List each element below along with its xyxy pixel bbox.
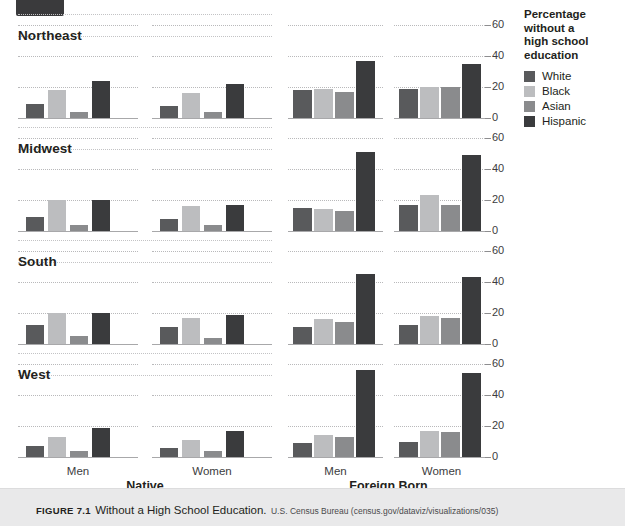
bar-hispanic bbox=[356, 370, 375, 457]
legend-label-asian: Asian bbox=[542, 100, 571, 112]
plot-area bbox=[394, 364, 489, 457]
y-tick-label-0: 0 bbox=[492, 450, 498, 462]
caption-source: U.S. Census Bureau (census.gov/dataviz/v… bbox=[271, 506, 498, 516]
axis-baseline bbox=[152, 344, 272, 345]
legend-title-line-4: education bbox=[524, 49, 620, 63]
bar-asian bbox=[335, 322, 354, 344]
plot-area bbox=[152, 25, 272, 118]
bar-hispanic bbox=[92, 200, 110, 231]
region-row-midwest: Midwest6040200 bbox=[0, 127, 625, 240]
legend-swatch-hispanic-icon bbox=[524, 116, 535, 127]
bar-asian bbox=[441, 432, 460, 457]
panel-midwest-native-women bbox=[152, 127, 272, 240]
panel-south-foreign-born-women bbox=[394, 240, 489, 353]
bar-hispanic bbox=[226, 315, 244, 344]
bar-asian bbox=[441, 205, 460, 231]
y-tick-mark bbox=[485, 200, 491, 201]
bar-hispanic bbox=[226, 205, 244, 231]
panel-midwest-foreign-born-women bbox=[394, 127, 489, 240]
figure-caption-bar: FIGURE 7.1 Without a High School Educati… bbox=[0, 488, 625, 526]
bar-group bbox=[18, 25, 138, 118]
bar-white bbox=[26, 217, 44, 231]
legend-item-white: White bbox=[524, 70, 620, 82]
bar-white bbox=[26, 325, 44, 344]
panel-northeast-foreign-born-women bbox=[394, 14, 489, 127]
bar-hispanic bbox=[226, 431, 244, 457]
bar-black bbox=[182, 318, 200, 344]
plot-area bbox=[18, 25, 138, 118]
bar-asian bbox=[335, 437, 354, 457]
axis-baseline bbox=[18, 344, 138, 345]
panel-west-foreign-born-women bbox=[394, 353, 489, 466]
y-tick-label-40: 40 bbox=[492, 275, 504, 287]
axis-baseline bbox=[18, 457, 138, 458]
legend-swatch-asian-icon bbox=[524, 101, 535, 112]
bar-white bbox=[399, 89, 418, 118]
bar-group bbox=[18, 364, 138, 457]
x-sublabel-foreign-born-men: Men bbox=[288, 465, 383, 477]
bar-black bbox=[48, 313, 66, 344]
y-tick-mark bbox=[485, 25, 491, 26]
bar-asian bbox=[70, 336, 88, 344]
plot-area bbox=[394, 251, 489, 344]
bar-black bbox=[182, 93, 200, 118]
bar-black bbox=[420, 195, 439, 231]
y-tick-label-60: 60 bbox=[492, 18, 504, 30]
legend-title: Percentage without a high school educati… bbox=[524, 8, 620, 62]
legend-title-line-1: Percentage bbox=[524, 8, 620, 22]
bar-hispanic bbox=[462, 64, 481, 118]
y-tick-label-20: 20 bbox=[492, 193, 504, 205]
bar-hispanic bbox=[462, 155, 481, 231]
y-tick-mark bbox=[485, 344, 491, 345]
bar-group bbox=[288, 364, 383, 457]
bar-group bbox=[394, 364, 489, 457]
bar-white bbox=[26, 446, 44, 457]
y-tick-label-20: 20 bbox=[492, 419, 504, 431]
bar-black bbox=[314, 435, 333, 457]
bar-black bbox=[48, 200, 66, 231]
x-sublabel-foreign-born-women: Women bbox=[394, 465, 489, 477]
bar-white bbox=[399, 325, 418, 344]
bar-hispanic bbox=[356, 61, 375, 118]
axis-baseline bbox=[394, 118, 489, 119]
bar-white bbox=[399, 205, 418, 231]
panel-northeast-native-men bbox=[18, 14, 138, 127]
bar-hispanic bbox=[92, 313, 110, 344]
plot-area bbox=[288, 138, 383, 231]
bar-group bbox=[152, 251, 272, 344]
legend-item-asian: Asian bbox=[524, 100, 620, 112]
bar-group bbox=[18, 138, 138, 231]
axis-baseline bbox=[288, 118, 383, 119]
plot-area bbox=[152, 138, 272, 231]
y-tick-mark bbox=[485, 138, 491, 139]
bar-black bbox=[48, 437, 66, 457]
bar-white bbox=[293, 443, 312, 457]
axis-baseline bbox=[152, 231, 272, 232]
legend-swatch-white-icon bbox=[524, 71, 535, 82]
y-tick-mark bbox=[485, 426, 491, 427]
y-tick-mark bbox=[485, 457, 491, 458]
y-tick-mark bbox=[485, 56, 491, 57]
bar-asian bbox=[441, 318, 460, 344]
y-tick-mark bbox=[485, 313, 491, 314]
axis-baseline bbox=[152, 118, 272, 119]
bar-black bbox=[420, 431, 439, 457]
bar-black bbox=[420, 316, 439, 344]
bar-hispanic bbox=[462, 277, 481, 344]
plot-area bbox=[394, 25, 489, 118]
y-tick-label-20: 20 bbox=[492, 80, 504, 92]
y-tick-label-60: 60 bbox=[492, 244, 504, 256]
caption-title: Without a High School Education. bbox=[95, 504, 266, 516]
bar-hispanic bbox=[356, 274, 375, 344]
y-tick-label-60: 60 bbox=[492, 357, 504, 369]
panel-west-native-women bbox=[152, 353, 272, 466]
legend-label-hispanic: Hispanic bbox=[542, 115, 586, 127]
y-tick-mark bbox=[485, 87, 491, 88]
bar-hispanic bbox=[462, 373, 481, 457]
axis-baseline bbox=[152, 457, 272, 458]
axis-baseline bbox=[288, 344, 383, 345]
y-tick-label-40: 40 bbox=[492, 388, 504, 400]
plot-area bbox=[152, 364, 272, 457]
bar-white bbox=[26, 104, 44, 118]
bar-black bbox=[48, 90, 66, 118]
